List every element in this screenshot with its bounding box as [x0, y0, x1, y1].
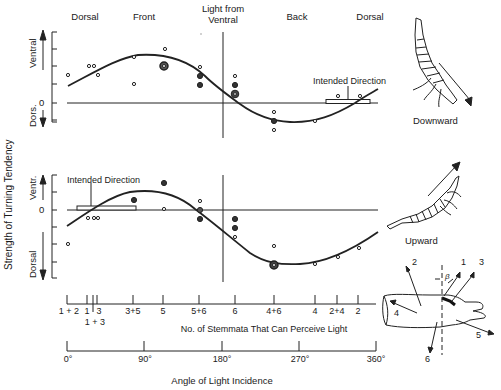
- angle-tick-180: 180°: [213, 355, 232, 364]
- upward-larva-illustration: [387, 162, 461, 229]
- stem-tick-5-6: 5+6: [191, 307, 206, 316]
- upper-top-label-ventral: Ventral: [208, 15, 238, 25]
- upper-top-label-light-from: Light from: [202, 4, 244, 14]
- upper-intended-direction-label: Intended Direction: [313, 77, 386, 86]
- angle-tick-90: 90°: [138, 355, 152, 364]
- angle-tick-360: 360°: [367, 355, 386, 364]
- upper-top-label-front: Front: [133, 12, 155, 22]
- stemmata-axis-title: No. of Stemmata That Can Perceive Light: [181, 325, 347, 334]
- stemma-label-4: 4: [394, 309, 399, 318]
- upper-top-label-dorsal-right: Dorsal: [356, 12, 383, 22]
- upper-top-label-back: Back: [286, 12, 307, 22]
- downward-larva-illustration: [413, 18, 472, 107]
- upper-y-pos-label: Ventral: [28, 38, 38, 68]
- stem-tick-5: 5: [160, 307, 165, 316]
- head-stemmata-diagram: [383, 265, 494, 355]
- upper-y-neg-label: Dors.: [28, 104, 38, 127]
- upper-zero-label: 0: [39, 98, 44, 108]
- y-axis-title: Strength of Turning Tendency: [4, 140, 14, 270]
- stemma-label-1: 1: [461, 258, 466, 267]
- lower-data-points: [66, 180, 360, 269]
- stem-tick-2: 2: [355, 307, 360, 316]
- beta-angle-label: β: [445, 273, 450, 281]
- angle-axis: [67, 341, 376, 351]
- upper-ventral-arrow-icon: [40, 30, 46, 70]
- upper-y-axis: [52, 32, 57, 122]
- angle-tick-270: 270°: [291, 355, 310, 364]
- lower-ventral-arrow-icon: [40, 175, 46, 200]
- stemma-label-3: 3: [479, 258, 484, 267]
- stem-tick-6: 6: [232, 307, 237, 316]
- lower-intended-direction-label: Intended Direction: [67, 176, 140, 185]
- stem-tick-3: 3: [96, 307, 101, 316]
- downward-label: Downward: [413, 116, 458, 126]
- upper-dorsal-arrow-icon: [40, 110, 46, 127]
- stem-tick-4: 4: [312, 307, 317, 316]
- lower-intended-box: [77, 183, 136, 210]
- lower-y-neg-label: Dorsal: [28, 251, 38, 278]
- lower-zero-label: 0: [39, 205, 44, 215]
- stem-tick-3-5: 3+5: [125, 307, 140, 316]
- stemma-label-2: 2: [412, 258, 417, 267]
- angle-tick-0: 0°: [64, 355, 73, 364]
- stem-tick-1: 1: [84, 307, 89, 316]
- lower-dorsal-arrow-icon: [40, 232, 46, 280]
- stemma-label-5: 5: [476, 331, 481, 340]
- stemma-label-6: 6: [425, 355, 430, 364]
- upward-label: Upward: [405, 236, 438, 246]
- upper-top-label-dorsal-left: Dorsal: [71, 12, 98, 22]
- angle-axis-title: Angle of Light Incidence: [171, 376, 272, 386]
- lower-y-pos-label: Ventr.: [28, 176, 38, 200]
- stem-tick-2-4: 2+4: [329, 307, 344, 316]
- stem-tick-1-2: 1 + 2: [59, 307, 79, 316]
- upper-intended-box: [326, 86, 370, 104]
- lower-y-axis: [52, 175, 57, 278]
- stem-tick-1-3: 1 + 3: [85, 318, 105, 327]
- stem-tick-4-6: 4+6: [266, 307, 281, 316]
